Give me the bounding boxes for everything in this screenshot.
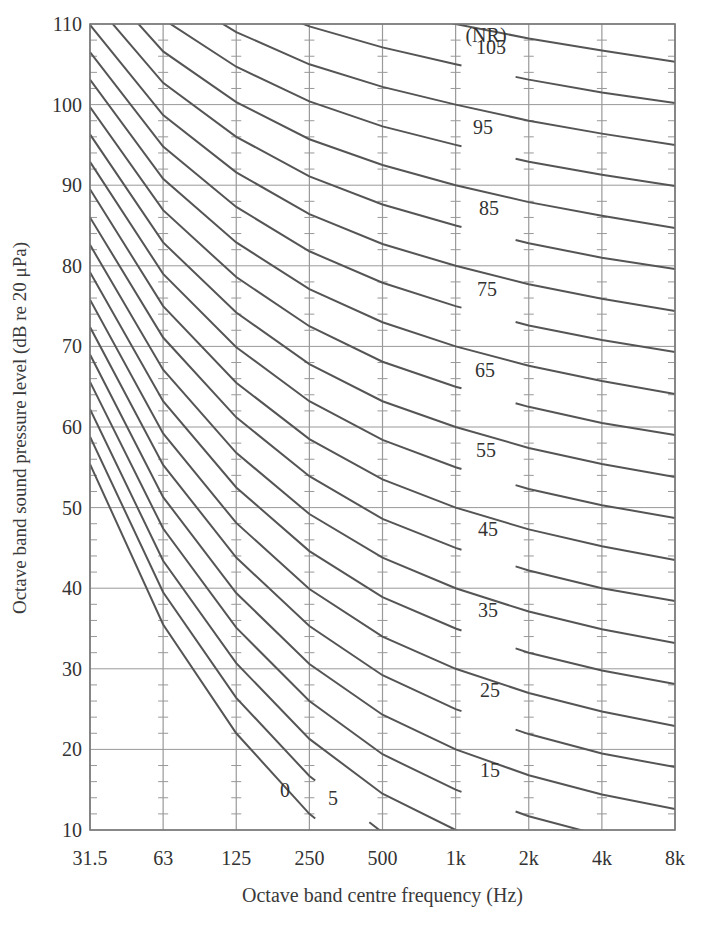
nr-curve bbox=[516, 322, 675, 352]
legend-title: (NR) bbox=[465, 24, 506, 47]
nr-curve bbox=[516, 812, 675, 851]
nr-curve bbox=[90, 272, 461, 630]
nr-curve bbox=[516, 648, 675, 684]
nr-curve bbox=[90, 52, 461, 307]
nr-curve-label: 45 bbox=[478, 518, 498, 540]
nr-curve bbox=[516, 77, 675, 103]
y-tick-label: 110 bbox=[53, 13, 82, 35]
nr-curve bbox=[369, 822, 675, 927]
nr-curve-label: 85 bbox=[479, 197, 499, 219]
grid bbox=[90, 24, 675, 830]
nr-curve bbox=[516, 403, 675, 435]
x-tick-label: 31.5 bbox=[73, 847, 108, 869]
y-axis-label: Octave band sound pressure level (dB re … bbox=[9, 242, 31, 614]
x-tick-label: 1k bbox=[446, 847, 466, 869]
y-tick-label: 70 bbox=[62, 335, 82, 357]
nr-curve bbox=[516, 730, 675, 768]
nr-curve bbox=[516, 159, 675, 186]
nr-curve bbox=[516, 566, 675, 601]
nr-curve-label: 15 bbox=[480, 759, 500, 781]
nr-curve-label: 25 bbox=[480, 679, 500, 701]
x-tick-label: 63 bbox=[153, 847, 173, 869]
nr-curve bbox=[90, 464, 315, 818]
nr-curve bbox=[90, 437, 315, 781]
x-axis-label: Octave band centre frequency (Hz) bbox=[0, 884, 703, 907]
x-tick-label: 250 bbox=[294, 847, 324, 869]
x-tick-label: 8k bbox=[665, 847, 685, 869]
nr-curve bbox=[516, 485, 675, 518]
nr-curve bbox=[90, 327, 461, 711]
x-tick-label: 2k bbox=[519, 847, 539, 869]
y-tick-label: 100 bbox=[52, 94, 82, 116]
nr-curve bbox=[90, 0, 461, 227]
y-tick-label: 20 bbox=[62, 738, 82, 760]
nr-curve bbox=[90, 162, 461, 469]
nr-curves-chart: 10203040506070809010011031.5631252505001… bbox=[0, 0, 703, 927]
nr-curve-label: 35 bbox=[478, 599, 498, 621]
nr-curve bbox=[90, 0, 675, 20]
x-tick-label: 500 bbox=[368, 847, 398, 869]
y-tick-label: 10 bbox=[62, 819, 82, 841]
nr-curve-label: 55 bbox=[476, 439, 496, 461]
tick-labels: 10203040506070809010011031.5631252505001… bbox=[52, 13, 685, 869]
nr-curve-label: 65 bbox=[475, 359, 495, 381]
nr-curve bbox=[516, 240, 675, 269]
y-tick-label: 60 bbox=[62, 416, 82, 438]
y-tick-label: 50 bbox=[62, 497, 82, 519]
x-tick-label: 4k bbox=[592, 847, 612, 869]
y-tick-label: 30 bbox=[62, 658, 82, 680]
x-tick-label: 125 bbox=[221, 847, 251, 869]
nr-curve-label: 75 bbox=[477, 278, 497, 300]
nr-curve-label: 0 bbox=[280, 779, 290, 801]
nr-curve-label: 5 bbox=[328, 787, 338, 809]
y-tick-label: 40 bbox=[62, 577, 82, 599]
nr-curve-label: 95 bbox=[473, 116, 493, 138]
y-tick-label: 80 bbox=[62, 255, 82, 277]
y-tick-label: 90 bbox=[62, 174, 82, 196]
